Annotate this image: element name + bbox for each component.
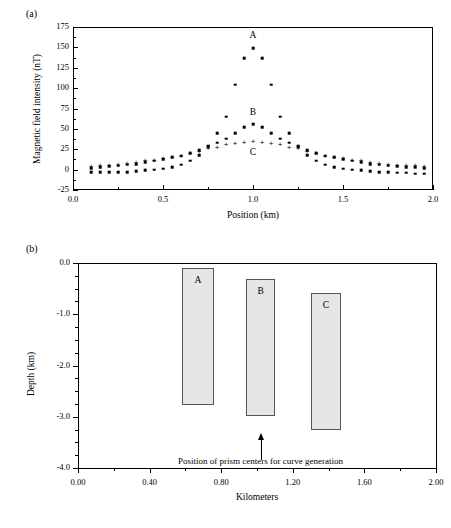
- curve-label-a: A: [250, 30, 257, 40]
- data-point-b: [234, 132, 237, 135]
- x-axis-title-b: Kilometers: [236, 492, 278, 502]
- data-point-c: [259, 140, 265, 146]
- y-tick: [73, 47, 78, 48]
- x-tick: [343, 185, 344, 190]
- data-point-a: [261, 57, 264, 60]
- y-tick: [73, 88, 78, 89]
- y-tick-label: 25: [39, 143, 69, 153]
- x-tick-label-b: 0.80: [214, 477, 229, 487]
- data-point-a: [189, 159, 192, 162]
- data-point-c: [214, 145, 220, 151]
- y-minor-tick: [73, 139, 76, 140]
- data-point-a: [126, 171, 129, 174]
- y-minor-tick-b: [75, 404, 79, 405]
- y-tick: [73, 190, 78, 191]
- data-point-a: [288, 132, 291, 135]
- y-tick-b: [73, 314, 79, 315]
- y-tick-b: [73, 417, 79, 418]
- data-point-b: [270, 132, 273, 135]
- y-minor-tick-b: [75, 391, 79, 392]
- y-tick-label: 50: [39, 123, 69, 133]
- data-point-c: [304, 149, 310, 155]
- data-point-a: [405, 172, 408, 175]
- x-minor-tick-b: [257, 468, 258, 471]
- data-point-c: [106, 163, 112, 169]
- data-point-c: [205, 146, 211, 152]
- y-tick-label: 75: [39, 103, 69, 113]
- y-tick: [73, 68, 78, 69]
- x-minor-tick: [118, 187, 119, 190]
- plot-right-axis-b: [436, 263, 437, 468]
- data-point-c: [358, 158, 364, 164]
- x-minor-tick-b: [185, 468, 186, 471]
- x-tick: [73, 185, 74, 190]
- prism-label-a: A: [194, 275, 201, 285]
- plot-top-line-b: [78, 263, 436, 264]
- data-point-a: [324, 163, 327, 166]
- data-point-b: [243, 126, 246, 129]
- annotation-text: Position of prism centers for curve gene…: [178, 456, 343, 466]
- data-point-c: [97, 163, 103, 169]
- x-minor-tick-b: [400, 468, 401, 471]
- panel-a-tag: (a): [26, 8, 37, 19]
- x-tick-label: 1.5: [338, 194, 349, 204]
- y-axis-title-a: Magnetic field intensity (nT): [32, 53, 42, 163]
- y-tick-label: 125: [39, 62, 69, 72]
- data-point-c: [349, 158, 355, 164]
- y-axis-title-b: Depth (km): [26, 351, 36, 395]
- x-tick-label-b: 0.00: [71, 477, 86, 487]
- x-tick-label-b: 1.20: [285, 477, 300, 487]
- data-point-a: [135, 170, 138, 173]
- y-minor-tick-b: [75, 353, 79, 354]
- data-point-c: [403, 163, 409, 169]
- y-tick: [73, 27, 78, 28]
- y-tick-b: [73, 366, 79, 367]
- data-point-c: [385, 162, 391, 168]
- y-minor-tick: [73, 159, 76, 160]
- x-tick-b: [78, 468, 79, 473]
- y-tick-label-b: -2.0: [38, 360, 70, 370]
- panel-b-tag: (b): [26, 243, 38, 254]
- x-tick: [433, 185, 434, 190]
- prism-label-c: C: [323, 300, 329, 310]
- data-point-a: [369, 170, 372, 173]
- data-point-c: [223, 142, 229, 148]
- data-point-a: [252, 47, 255, 50]
- data-point-c: [250, 139, 256, 145]
- data-point-a: [342, 168, 345, 171]
- x-axis-title-a: Position (km): [227, 210, 279, 220]
- y-minor-tick-b: [75, 327, 79, 328]
- data-point-a: [396, 172, 399, 175]
- data-point-c: [277, 142, 283, 148]
- data-point-a: [162, 168, 165, 171]
- x-tick-b: [221, 468, 222, 473]
- data-point-c: [133, 160, 139, 166]
- prism-label-b: B: [257, 286, 263, 296]
- y-tick-label-b: -1.0: [38, 308, 70, 318]
- data-point-c: [124, 161, 130, 167]
- data-point-a: [423, 172, 426, 175]
- x-tick-b: [150, 468, 151, 473]
- x-tick-label: 0.5: [158, 194, 169, 204]
- y-minor-tick-b: [75, 378, 79, 379]
- data-point-c: [421, 164, 427, 170]
- data-point-a: [387, 171, 390, 174]
- x-tick-b: [293, 468, 294, 473]
- data-point-a: [279, 115, 282, 118]
- data-point-c: [169, 155, 175, 161]
- data-point-c: [178, 154, 184, 160]
- data-point-c: [241, 140, 247, 146]
- y-minor-tick-b: [75, 430, 79, 431]
- y-tick-label-b: -3.0: [38, 411, 70, 421]
- prism-c: [311, 293, 341, 430]
- data-point-a: [270, 84, 273, 87]
- data-point-c: [187, 151, 193, 157]
- y-tick-label-b: 0.0: [38, 257, 70, 267]
- data-point-c: [232, 141, 238, 147]
- y-tick-label: 175: [39, 21, 69, 31]
- data-point-a: [414, 172, 417, 175]
- y-minor-tick-b: [75, 289, 79, 290]
- x-tick-label-b: 1.60: [357, 477, 372, 487]
- y-tick-b: [73, 263, 79, 264]
- data-point-a: [243, 57, 246, 60]
